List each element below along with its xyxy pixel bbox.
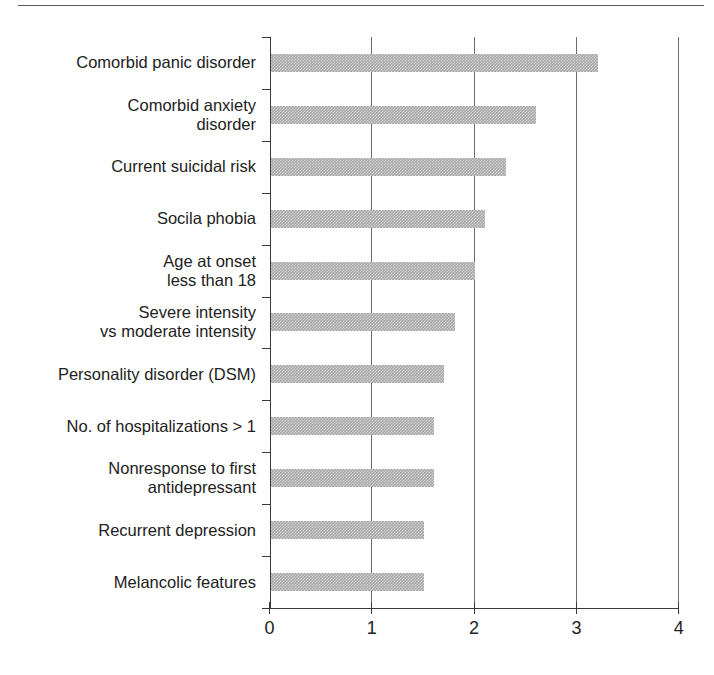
x-axis-label: 0	[250, 618, 290, 639]
x-axis-label: 4	[659, 618, 699, 639]
bar-row: Personality disorder (DSM)	[0, 348, 714, 400]
bar	[271, 262, 476, 280]
bar	[271, 210, 486, 228]
bar-row: Age at onset less than 18	[0, 245, 714, 297]
bar	[271, 106, 537, 124]
bar	[271, 54, 598, 72]
bar-row: Current suicidal risk	[0, 141, 714, 193]
bar	[271, 158, 506, 176]
bar	[271, 521, 424, 539]
x-axis-label: 1	[352, 618, 392, 639]
category-label: Recurrent depression	[6, 521, 256, 540]
category-label: No. of hospitalizations > 1	[6, 417, 256, 436]
bar	[271, 469, 435, 487]
horizontal-bar-chart: Comorbid panic disorderComorbid anxiety …	[0, 0, 714, 675]
bar	[271, 417, 435, 435]
category-label: Nonresponse to first antidepressant	[6, 459, 256, 497]
category-label: Personality disorder (DSM)	[6, 365, 256, 384]
bar	[271, 573, 424, 591]
bar-row: Severe intensity vs moderate intensity	[0, 297, 714, 349]
category-label: Comorbid anxiety disorder	[6, 96, 256, 134]
x-axis-label: 3	[556, 618, 596, 639]
bar-row: Recurrent depression	[0, 504, 714, 556]
bar-row: Melancolic features	[0, 556, 714, 608]
bar	[271, 365, 445, 383]
x-axis-label: 2	[454, 618, 494, 639]
bar-row: No. of hospitalizations > 1	[0, 400, 714, 452]
category-label: Socila phobia	[6, 209, 256, 228]
category-label: Comorbid panic disorder	[6, 53, 256, 72]
category-label: Age at onset less than 18	[6, 252, 256, 290]
bar-row: Nonresponse to first antidepressant	[0, 452, 714, 504]
bar-row: Comorbid panic disorder	[0, 37, 714, 89]
bar-row: Comorbid anxiety disorder	[0, 89, 714, 141]
category-label: Severe intensity vs moderate intensity	[6, 303, 256, 341]
category-label: Melancolic features	[6, 573, 256, 592]
bar	[271, 313, 455, 331]
category-label: Current suicidal risk	[6, 157, 256, 176]
bar-row: Socila phobia	[0, 193, 714, 245]
